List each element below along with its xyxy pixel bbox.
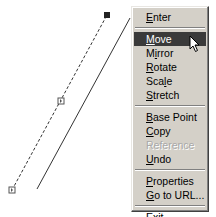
menu-item-go-to-url[interactable]: Go to URL... bbox=[134, 188, 206, 202]
menu-item-properties[interactable]: Properties bbox=[134, 174, 206, 188]
menu-item-exit[interactable]: Exit bbox=[134, 210, 206, 217]
hot-grip-icon[interactable] bbox=[104, 12, 110, 18]
menu-item-enter[interactable]: Enter bbox=[134, 10, 206, 24]
menu-item-undo[interactable]: Undo bbox=[134, 152, 206, 166]
menu-item-base-point[interactable]: Base Point bbox=[134, 110, 206, 124]
menu-item-copy[interactable]: Copy bbox=[134, 124, 206, 138]
menu-separator bbox=[135, 205, 205, 207]
mid-grip-icon[interactable] bbox=[58, 98, 64, 104]
menu-separator bbox=[135, 27, 205, 29]
menu-separator bbox=[135, 169, 205, 171]
menu-item-stretch[interactable]: Stretch bbox=[134, 88, 206, 102]
menu-item-reference: Reference bbox=[134, 138, 206, 152]
mouse-pointer-icon bbox=[189, 35, 201, 53]
preview-line bbox=[37, 18, 130, 189]
menu-separator bbox=[135, 105, 205, 107]
start-grip-icon[interactable] bbox=[9, 187, 15, 193]
menu-item-scale[interactable]: Scale bbox=[134, 74, 206, 88]
menu-item-rotate[interactable]: Rotate bbox=[134, 60, 206, 74]
